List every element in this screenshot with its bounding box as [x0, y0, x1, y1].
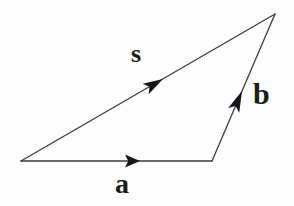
vector-label-s: s: [131, 41, 141, 67]
vector-s-line: [21, 14, 275, 161]
vector-label-a: a: [115, 170, 129, 198]
diagram-strokes: [21, 14, 275, 161]
vector-b-arrowhead-icon: [228, 91, 242, 113]
arrowheads: [125, 79, 242, 168]
vector-label-b: b: [253, 79, 270, 109]
vector-triangle-svg: [0, 0, 294, 206]
vector-s-arrowhead-icon: [143, 79, 163, 94]
vector-diagram-figure: s b a: [0, 0, 294, 206]
